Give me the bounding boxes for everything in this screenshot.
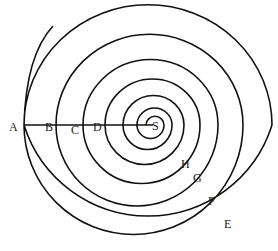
point-label-a: A — [9, 120, 18, 134]
spiral-curve — [24, 5, 272, 235]
point-label-b: B — [45, 120, 53, 134]
spiral-diagram: ABCDHGFES — [0, 0, 278, 251]
point-label-e: E — [224, 217, 231, 231]
point-label-f: F — [208, 194, 215, 208]
point-label-h: H — [181, 157, 190, 171]
point-label-s: S — [152, 119, 159, 133]
point-label-c: C — [71, 123, 79, 137]
point-label-g: G — [193, 171, 202, 185]
point-label-d: D — [93, 120, 102, 134]
